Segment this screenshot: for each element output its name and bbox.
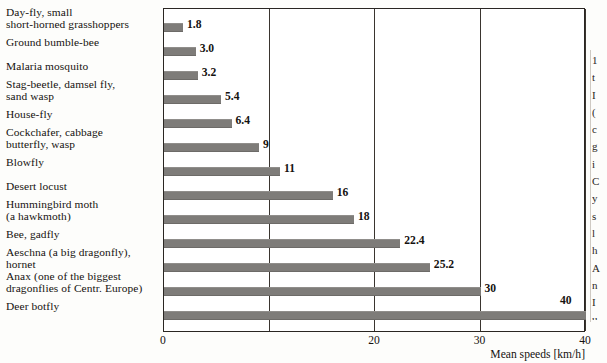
category-label-line: Bee, gadfly — [6, 229, 158, 241]
category-label-line: short-horned grasshoppers — [6, 19, 158, 31]
bar-row: 40 — [164, 304, 586, 328]
category-label-line: sand wasp — [6, 91, 158, 103]
right-column-text-fragment: u — [592, 311, 607, 320]
bar — [164, 191, 333, 200]
bar-row: 3.0 — [164, 40, 586, 64]
category-label-line: Malaria mosquito — [6, 61, 158, 73]
category-label-column: Day-fly, smallshort-horned grasshoppersG… — [0, 8, 160, 332]
right-column-text-fragment: 1 — [592, 52, 607, 69]
bar-row: 11 — [164, 160, 586, 184]
category-label-line: dragonflies of Centr. Europe) — [6, 283, 158, 295]
category-label-line: House-fly — [6, 109, 158, 121]
bar-value-label: 18 — [358, 210, 370, 223]
bar-row: 9 — [164, 136, 586, 160]
right-column-text-fragment: A — [592, 260, 607, 277]
category-label-line: (a hawkmoth) — [6, 211, 158, 223]
right-column-text-fragment: n — [592, 277, 607, 294]
category-label-line: butterfly, wasp — [6, 139, 158, 151]
bar-value-label: 3.0 — [200, 42, 215, 55]
category-label: Ground bumble-bee — [6, 37, 158, 49]
right-column-text-fragment: ( — [592, 104, 607, 121]
bar-value-label: 1.8 — [187, 18, 202, 31]
bar-value-label: 9 — [263, 138, 269, 151]
scanned-chart-page: Day-fly, smallshort-horned grasshoppersG… — [0, 0, 607, 363]
bar — [164, 119, 232, 128]
right-column-text-fragment: t — [592, 69, 607, 86]
bar — [164, 311, 586, 320]
bar-row: 5.4 — [164, 88, 586, 112]
category-label: Desert locust — [6, 181, 158, 193]
bar — [164, 287, 481, 296]
bar-value-label: 40 — [560, 294, 572, 307]
bar-row: 16 — [164, 184, 586, 208]
bar-row: 25.2 — [164, 256, 586, 280]
right-column-text-fragment: y — [592, 190, 607, 207]
category-label: Blowfly — [6, 157, 158, 169]
bar-value-label: 25.2 — [434, 258, 454, 271]
category-label-line: hornet — [6, 259, 158, 271]
bar-value-label: 30 — [485, 282, 497, 295]
right-cutoff-text-column: 1tI(cgiCyslhAnIusa — [592, 52, 607, 320]
category-label: House-fly — [6, 109, 158, 121]
bar-value-label: 5.4 — [225, 90, 240, 103]
x-tick-0: 0 — [160, 334, 166, 347]
category-label: Anax (one of the biggestdragonflies of C… — [6, 271, 158, 294]
right-column-text-fragment: g — [592, 138, 607, 155]
category-label-line: Deer botfly — [6, 301, 158, 313]
bar — [164, 263, 430, 272]
category-label-line: Ground bumble-bee — [6, 37, 158, 49]
bar — [164, 23, 183, 32]
bar — [164, 215, 354, 224]
category-label: Deer botfly — [6, 301, 158, 313]
bar-row: 6.4 — [164, 112, 586, 136]
x-axis-title: Mean speeds [km/h] — [490, 348, 585, 361]
right-column-text-fragment: l — [592, 225, 607, 242]
x-tick-20: 20 — [368, 334, 380, 347]
bar — [164, 71, 198, 80]
bar — [164, 95, 221, 104]
right-column-text-fragment: C — [592, 173, 607, 190]
bar — [164, 239, 400, 248]
right-column-text-fragment: s — [592, 208, 607, 225]
right-column-rule — [590, 50, 591, 322]
right-column-text-fragment: c — [592, 121, 607, 138]
bar-row: 1.8 — [164, 16, 586, 40]
bar-row: 3.2 — [164, 64, 586, 88]
x-tick-30: 30 — [474, 334, 486, 347]
bar-value-label: 11 — [284, 162, 295, 175]
category-label: Hummingbird moth(a hawkmoth) — [6, 199, 158, 222]
chart-plot-area: 1.83.03.25.46.4911161822.425.23040 — [163, 8, 585, 332]
bar — [164, 47, 196, 56]
category-label: Aeschna (a big dragonfly),hornet — [6, 247, 158, 270]
category-label: Bee, gadfly — [6, 229, 158, 241]
right-column-text-fragment: I — [592, 294, 607, 311]
category-label: Cockchafer, cabbagebutterfly, wasp — [6, 127, 158, 150]
bar — [164, 143, 259, 152]
bar-row: 30 — [164, 280, 586, 304]
bar-value-label: 6.4 — [236, 114, 251, 127]
bar-value-label: 16 — [337, 186, 349, 199]
bar-row: 18 — [164, 208, 586, 232]
category-label-line: Desert locust — [6, 181, 158, 193]
bar-value-label: 3.2 — [202, 66, 217, 79]
x-tick-40: 40 — [579, 334, 591, 347]
category-label: Malaria mosquito — [6, 61, 158, 73]
category-label: Day-fly, smallshort-horned grasshoppers — [6, 7, 158, 30]
bar-row: 22.4 — [164, 232, 586, 256]
bar — [164, 167, 280, 176]
category-label-line: Blowfly — [6, 157, 158, 169]
page-top-cutoff-text — [8, 0, 308, 4]
right-column-text-fragment: h — [592, 242, 607, 259]
right-column-text-fragment: i — [592, 156, 607, 173]
bar-value-label: 22.4 — [404, 234, 424, 247]
right-column-text-fragment: I — [592, 87, 607, 104]
category-label: Stag-beetle, damsel fly,sand wasp — [6, 79, 158, 102]
